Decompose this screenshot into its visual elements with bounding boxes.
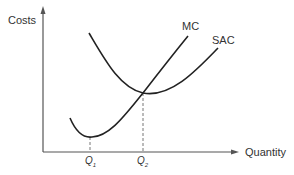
q2-tick-label: Q2 [137,155,148,168]
sac-curve [89,33,218,94]
x-axis-arrow-icon [231,150,239,155]
mc-label: MC [182,20,199,32]
q1-tick-label: Q1 [85,155,96,168]
y-axis-label: Costs [8,14,36,26]
sac-label: SAC [212,34,235,46]
x-axis-label: Quantity [245,146,286,158]
y-axis-arrow-icon [41,6,46,14]
